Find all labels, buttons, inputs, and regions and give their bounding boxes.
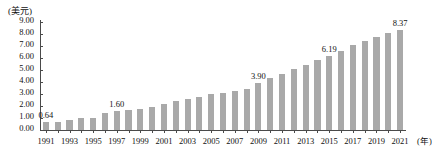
- bar-slot: [279, 22, 285, 130]
- x-axis-tick-label: 2021: [385, 136, 415, 146]
- bar: [66, 120, 72, 130]
- y-axis-tick-label: 0.00: [19, 124, 34, 133]
- y-axis-tick-label: 3.00: [19, 88, 34, 97]
- x-axis-tick-mark: [223, 130, 224, 133]
- x-axis-tick-mark: [58, 130, 59, 133]
- bar: [291, 69, 297, 130]
- bar: [350, 45, 356, 130]
- bar: [232, 91, 238, 130]
- bar: [208, 94, 214, 130]
- bar: [185, 99, 191, 130]
- bar-value-label: 0.64: [31, 111, 61, 120]
- bar: [255, 83, 261, 130]
- bar: [161, 104, 167, 130]
- x-axis-tick-mark: [329, 130, 330, 133]
- x-axis-tick-mark: [211, 130, 212, 133]
- x-axis-tick-mark: [199, 130, 200, 133]
- x-axis-tick-mark: [341, 130, 342, 133]
- y-axis-tick-label: 7.00: [19, 40, 34, 49]
- y-axis-tick-label: 8.00: [19, 28, 34, 37]
- x-axis-tick-mark: [81, 130, 82, 133]
- bar-slot: [90, 22, 96, 130]
- x-axis-tick-mark: [376, 130, 377, 133]
- bar: [196, 97, 202, 130]
- bar-slot: [125, 22, 131, 130]
- x-axis-tick-mark: [164, 130, 165, 133]
- bar-slot: [208, 22, 214, 130]
- bar-slot: [362, 22, 368, 130]
- x-axis-tick-mark: [46, 130, 47, 133]
- bar-slot: [161, 22, 167, 130]
- bar: [385, 33, 391, 130]
- bar-slot: [137, 22, 143, 130]
- bar-slot: [291, 22, 297, 130]
- y-axis-tick-label: 4.00: [19, 76, 34, 85]
- bar-slot: [173, 22, 179, 130]
- bar-slot: [314, 22, 320, 130]
- x-axis-tick-mark: [117, 130, 118, 133]
- bar: [303, 65, 309, 130]
- x-axis-tick-mark: [235, 130, 236, 133]
- bar: [279, 74, 285, 130]
- x-axis-tick-mark: [306, 130, 307, 133]
- x-axis-tick-mark: [258, 130, 259, 133]
- x-axis-tick-mark: [188, 130, 189, 133]
- y-axis-tick-label: 9.00: [19, 16, 34, 25]
- bar-slot: [102, 22, 108, 130]
- x-axis-tick-mark: [105, 130, 106, 133]
- x-axis-tick-mark: [282, 130, 283, 133]
- x-axis-tick-mark: [152, 130, 153, 133]
- x-axis-tick-mark: [365, 130, 366, 133]
- bar-slot: [78, 22, 84, 130]
- bar-value-label: 6.19: [314, 45, 344, 54]
- bar: [267, 78, 273, 130]
- y-axis-tick-label: 6.00: [19, 52, 34, 61]
- y-axis-tick-mark: [40, 130, 43, 131]
- bar-slot: [303, 22, 309, 130]
- bar: [90, 118, 96, 130]
- bar-slot: [185, 22, 191, 130]
- bar-slot: [338, 22, 344, 130]
- bar-slot: [397, 22, 403, 130]
- bar: [397, 30, 403, 130]
- bar: [373, 37, 379, 130]
- bar-slot: [220, 22, 226, 130]
- bar: [102, 113, 108, 130]
- bar: [173, 101, 179, 130]
- bar: [149, 107, 155, 130]
- x-axis-tick-mark: [129, 130, 130, 133]
- bar: [43, 122, 49, 130]
- bar: [125, 110, 131, 130]
- bar: [314, 60, 320, 130]
- bar: [220, 93, 226, 130]
- bar-slot: [114, 22, 120, 130]
- y-axis-tick-label: 5.00: [19, 64, 34, 73]
- x-axis-tick-mark: [176, 130, 177, 133]
- bar: [78, 118, 84, 130]
- bar-slot: [149, 22, 155, 130]
- bar: [338, 51, 344, 130]
- x-axis-tick-mark: [247, 130, 248, 133]
- bar: [137, 109, 143, 130]
- bar-slot: [385, 22, 391, 130]
- bar-slot: [373, 22, 379, 130]
- x-axis-tick-mark: [294, 130, 295, 133]
- x-axis-tick-mark: [93, 130, 94, 133]
- y-axis-tick-label: 2.00: [19, 100, 34, 109]
- x-axis-tick-mark: [388, 130, 389, 133]
- bar: [326, 56, 332, 130]
- x-axis-tick-mark: [270, 130, 271, 133]
- bar-value-label: 3.90: [243, 72, 273, 81]
- bar-value-label: 8.37: [385, 19, 415, 28]
- bar-slot: [66, 22, 72, 130]
- bar-slot: [326, 22, 332, 130]
- x-axis-tick-mark: [70, 130, 71, 133]
- x-axis-tick-mark: [400, 130, 401, 133]
- bar: [55, 122, 61, 130]
- bar-slot: [350, 22, 356, 130]
- x-axis-tick-mark: [353, 130, 354, 133]
- x-axis-unit-label: (年): [417, 136, 432, 146]
- x-axis-tick-mark: [317, 130, 318, 133]
- bar: [114, 111, 120, 130]
